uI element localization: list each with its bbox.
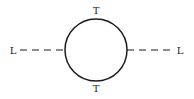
label-bottom: T	[93, 83, 100, 94]
label-right: L	[177, 45, 184, 56]
loop-circle	[65, 19, 127, 81]
label-left: L	[10, 45, 17, 56]
feynman-diagram: T T L L	[0, 0, 194, 99]
label-top: T	[93, 5, 100, 16]
